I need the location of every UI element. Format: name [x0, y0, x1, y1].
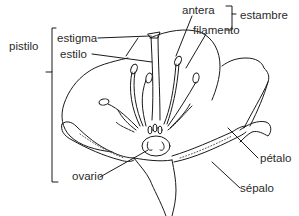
anther — [99, 98, 110, 106]
leader-antera — [176, 16, 192, 56]
leader-petalo — [228, 128, 258, 158]
leader-ovario — [100, 150, 148, 177]
label-sepalo: sépalo — [240, 183, 274, 195]
label-estambre: estambre — [240, 10, 288, 22]
anther — [129, 63, 138, 74]
label-pistilo: pistilo — [9, 41, 38, 53]
sepal-tip-right — [240, 121, 271, 142]
petal-back-center — [150, 30, 220, 100]
label-petalo: pétalo — [260, 153, 291, 165]
label-ovario: ovario — [72, 171, 103, 183]
leader-sepalo — [212, 162, 240, 188]
label-filamento: filamento — [193, 25, 240, 37]
pistilo-bracket — [46, 28, 58, 182]
label-estigma: estigma — [57, 33, 97, 45]
label-antera: antera — [182, 5, 215, 17]
ovary — [142, 136, 170, 156]
receptacle — [134, 158, 166, 216]
sepal-right — [172, 126, 246, 156]
anther — [145, 72, 153, 83]
leader-filamento — [186, 34, 206, 68]
flower-diagram: pistilo estigma estilo ovario antera fil… — [0, 0, 299, 216]
leader-estigma-2 — [126, 38, 138, 56]
leader-estigma — [98, 36, 150, 38]
petal-back-left — [62, 58, 128, 152]
label-estilo: estilo — [60, 49, 87, 61]
anther — [173, 55, 183, 67]
leader-estilo — [92, 54, 152, 62]
petal-right — [222, 58, 269, 128]
